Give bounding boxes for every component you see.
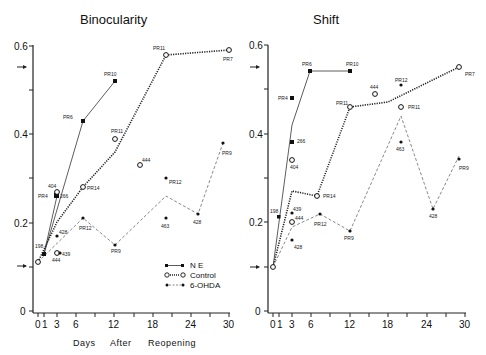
- shift-title: Shift: [313, 12, 339, 27]
- y-tick-0-6: 0.6: [249, 40, 263, 51]
- point-label: 444: [295, 215, 304, 221]
- point-label: PR12: [395, 77, 408, 83]
- x-tick-18: 18: [147, 319, 159, 330]
- x-tick-3: 3: [54, 319, 60, 330]
- ohda-markers: [55, 141, 224, 254]
- point-label: 266: [60, 193, 69, 199]
- reference-arrow-icon: [17, 65, 27, 69]
- point-label: 198: [35, 243, 44, 249]
- point-label: PR7: [465, 71, 475, 77]
- point-label: PR10: [346, 61, 359, 67]
- y-tick-0: 0: [255, 306, 261, 317]
- x-ticks: [38, 313, 229, 317]
- x-tick-0: 0: [270, 319, 276, 330]
- figure: Binocularity 0.6 0.4 0.2 0: [0, 0, 486, 355]
- x-label-after: After: [110, 338, 132, 348]
- y-tick-0-2: 0.2: [14, 218, 28, 229]
- point-label: PR9: [222, 150, 232, 156]
- legend-control: Control: [165, 271, 216, 280]
- chart-canvas: Binocularity 0.6 0.4 0.2 0: [0, 0, 486, 355]
- reference-arrow-icon: [250, 65, 260, 69]
- reference-arrow-icon: [17, 264, 27, 268]
- point-label: PR14: [323, 193, 336, 199]
- point-label: 428: [429, 213, 438, 219]
- binocularity-point-labels: PR10 PR6 PR11 PR7 PR11 444 PR9 404 PR4 2…: [35, 45, 233, 263]
- point-label: 198: [270, 208, 279, 214]
- x-label-days: Days: [73, 338, 96, 348]
- point-label: PR4: [38, 193, 48, 199]
- x-tick-24: 24: [185, 319, 197, 330]
- point-label: PR11: [408, 104, 420, 110]
- point-label: PR12: [314, 221, 327, 227]
- legend-label-ohda: 6-OHDA: [190, 281, 221, 290]
- y-tick-0-4: 0.4: [14, 129, 28, 140]
- point-label: 439: [62, 251, 71, 257]
- point-label: 439: [293, 206, 302, 212]
- x-tick-1: 1: [277, 319, 283, 330]
- point-label: PR4: [278, 95, 288, 101]
- point-label: PR6: [302, 61, 312, 67]
- point-label: 444: [370, 84, 379, 90]
- point-label: PR9: [111, 248, 121, 254]
- point-label: PR6: [63, 114, 73, 120]
- point-label: 404: [48, 183, 57, 189]
- point-label: PR9: [459, 165, 469, 171]
- x-tick-6: 6: [308, 319, 314, 330]
- legend: N E Control 6-OHDA: [165, 261, 221, 290]
- x-tick-12: 12: [108, 319, 120, 330]
- shift-panel: Shift 0.6 0.4 0.2 0 0 1: [249, 12, 475, 330]
- x-tick-30: 30: [223, 319, 235, 330]
- x-tick-0: 0: [35, 319, 41, 330]
- x-tick-30: 30: [459, 319, 471, 330]
- x-tick-3: 3: [289, 319, 295, 330]
- point-label: PR10: [104, 71, 117, 77]
- y-tick-0-4: 0.4: [249, 129, 263, 140]
- x-ticks: [273, 313, 465, 317]
- legend-label-control: Control: [190, 271, 216, 280]
- legend-ne: N E: [165, 261, 203, 270]
- y-tick-0-6: 0.6: [14, 41, 28, 52]
- point-label: PR11: [111, 128, 123, 134]
- point-label: 463: [396, 146, 405, 152]
- point-label: 404: [290, 164, 299, 170]
- x-tick-6: 6: [73, 319, 79, 330]
- legend-ohda: 6-OHDA: [166, 281, 221, 290]
- x-label-reopening: Reopening: [148, 338, 196, 348]
- control-line: [273, 67, 459, 267]
- y-tick-0: 0: [20, 306, 26, 317]
- point-label: 428: [59, 229, 68, 235]
- ne-line-branch: [44, 196, 57, 254]
- point-label: PR12: [79, 225, 92, 231]
- point-label: PR11: [153, 45, 165, 51]
- x-tick-18: 18: [382, 319, 394, 330]
- legend-label-ne: N E: [190, 261, 203, 270]
- reference-arrow-icon: [250, 265, 260, 269]
- point-label: PR9: [344, 235, 354, 241]
- point-label: PR12: [169, 179, 182, 185]
- control-markers: [271, 65, 462, 270]
- y-tick-0-2: 0.2: [249, 217, 263, 228]
- x-tick-12: 12: [344, 319, 356, 330]
- point-label: 444: [142, 157, 151, 163]
- point-label: PR11: [336, 100, 348, 106]
- point-label: 444: [52, 257, 61, 263]
- x-tick-24: 24: [421, 319, 433, 330]
- point-label: PR14: [87, 185, 100, 191]
- ohda-line: [38, 143, 223, 262]
- point-label: 266: [297, 138, 306, 144]
- shift-point-labels: PR6 PR10 PR4 PR11 444 PR12 PR7 PR11 266 …: [270, 61, 475, 250]
- point-label: 428: [193, 219, 202, 225]
- point-label: PR7: [223, 56, 233, 62]
- point-label: 428: [294, 244, 303, 250]
- x-tick-1: 1: [42, 319, 48, 330]
- binocularity-panel: Binocularity 0.6 0.4 0.2 0: [14, 12, 235, 348]
- binocularity-title: Binocularity: [80, 12, 148, 27]
- point-label: 463: [161, 223, 170, 229]
